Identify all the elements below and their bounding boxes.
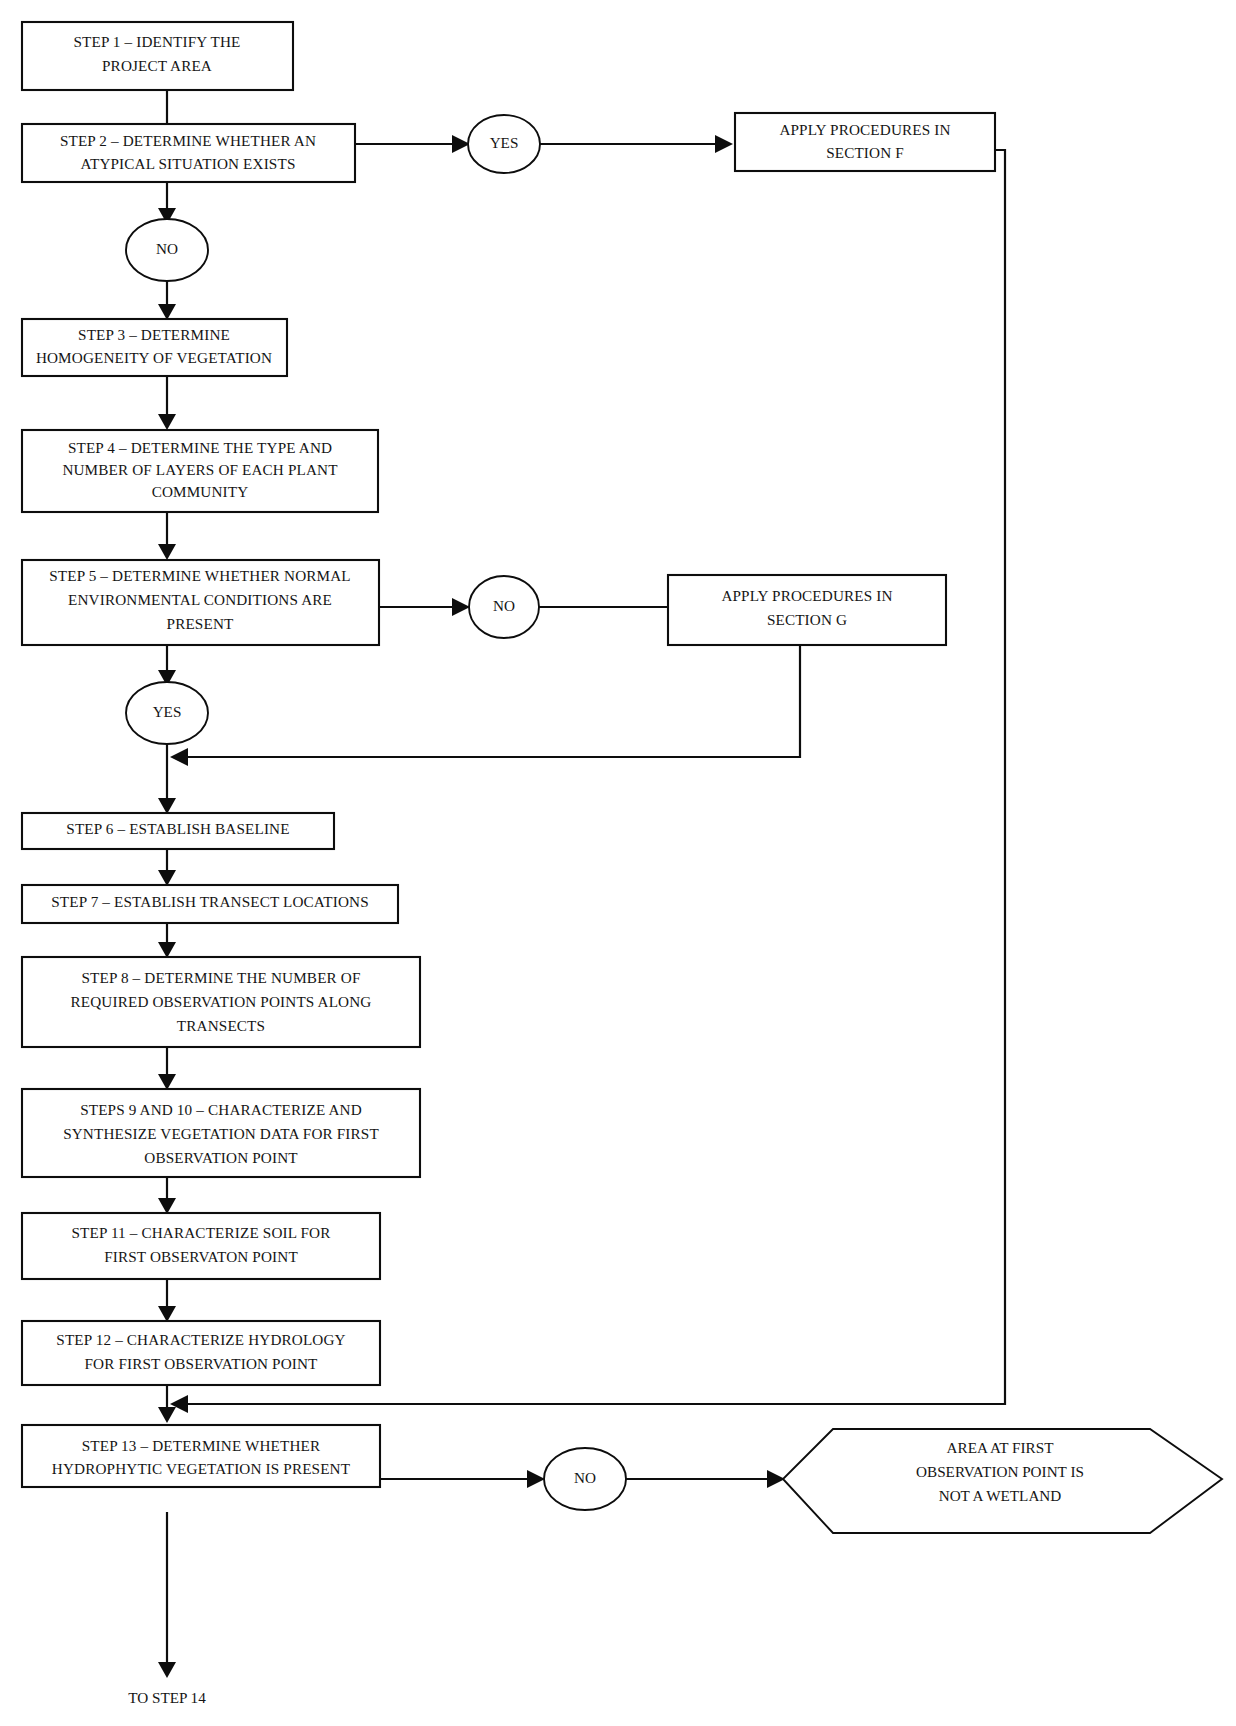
edge-step11-to-step12 <box>158 1279 176 1322</box>
to-step14-label: TO STEP 14 <box>128 1689 206 1706</box>
node-step8-line-1: STEP 8 – DETERMINE THE NUMBER OF <box>81 969 360 986</box>
node-step4-line-2: NUMBER OF LAYERS OF EACH PLANT <box>62 461 338 478</box>
edge-step6-to-step7 <box>158 846 176 886</box>
edge-step3-to-step4 <box>158 375 176 430</box>
node-step13-no-label: NO <box>574 1469 596 1486</box>
node-step13-line-2: HYDROPHYTIC VEGETATION IS PRESENT <box>52 1460 351 1477</box>
edge-no-to-not-wetland <box>625 1470 785 1488</box>
edge-yes-to-section-f <box>539 135 733 153</box>
node-step5-line-1: STEP 5 – DETERMINE WHETHER NORMAL <box>49 567 351 584</box>
node-step5-line-3: PRESENT <box>167 615 234 632</box>
node-step2-line-2: ATYPICAL SITUATION EXISTS <box>81 155 296 172</box>
node-section-f-line-1: APPLY PROCEDURES IN <box>779 121 950 138</box>
node-step8[interactable]: STEP 8 – DETERMINE THE NUMBER OF REQUIRE… <box>22 957 420 1047</box>
node-step1[interactable]: STEP 1 – IDENTIFY THE PROJECT AREA <box>22 22 293 90</box>
node-step5-yes-label: YES <box>153 703 182 720</box>
node-step1-line-1: STEP 1 – IDENTIFY THE <box>73 33 240 50</box>
edge-step7-to-step8 <box>158 921 176 958</box>
edge-step8-to-step9-10 <box>158 1047 176 1090</box>
node-not-wetland-terminal[interactable]: AREA AT FIRST OBSERVATION POINT IS NOT A… <box>783 1429 1222 1533</box>
edge-step2-to-no <box>158 182 176 224</box>
node-step4-line-3: COMMUNITY <box>152 483 249 500</box>
node-step5[interactable]: STEP 5 – DETERMINE WHETHER NORMAL ENVIRO… <box>22 560 379 645</box>
node-step12-line-2: FOR FIRST OBSERVATION POINT <box>84 1355 318 1372</box>
node-step5-line-2: ENVIRONMENTAL CONDITIONS ARE <box>68 591 332 608</box>
node-step5-no-label: NO <box>493 597 515 614</box>
edge-step2-to-yes <box>355 135 470 153</box>
node-step2-no-oval[interactable]: NO <box>126 219 208 281</box>
flowchart-svg: STEP 1 – IDENTIFY THE PROJECT AREA STEP … <box>0 0 1236 1726</box>
node-not-wetland-line-2: OBSERVATION POINT IS <box>916 1463 1084 1480</box>
node-step3[interactable]: STEP 3 – DETERMINE HOMOGENEITY OF VEGETA… <box>22 319 287 376</box>
node-not-wetland-line-1: AREA AT FIRST <box>947 1439 1055 1456</box>
node-step5-yes-oval[interactable]: YES <box>126 682 208 744</box>
node-step9-10-line-1: STEPS 9 AND 10 – CHARACTERIZE AND <box>80 1101 362 1118</box>
node-step11[interactable]: STEP 11 – CHARACTERIZE SOIL FOR FIRST OB… <box>22 1213 380 1279</box>
node-step2[interactable]: STEP 2 – DETERMINE WHETHER AN ATYPICAL S… <box>22 124 355 182</box>
node-section-f[interactable]: APPLY PROCEDURES IN SECTION F <box>735 113 995 171</box>
node-step11-line-2: FIRST OBSERVATON POINT <box>104 1248 298 1265</box>
flowchart-canvas: STEP 1 – IDENTIFY THE PROJECT AREA STEP … <box>0 0 1236 1726</box>
node-step9-10-line-3: OBSERVATION POINT <box>144 1149 298 1166</box>
node-step12-line-1: STEP 12 – CHARACTERIZE HYDROLOGY <box>56 1331 345 1348</box>
edge-step5-to-no <box>379 598 470 616</box>
node-step4[interactable]: STEP 4 – DETERMINE THE TYPE AND NUMBER O… <box>22 430 378 512</box>
node-step1-line-2: PROJECT AREA <box>102 57 212 74</box>
node-step2-yes-oval[interactable]: YES <box>468 115 540 173</box>
node-step8-line-2: REQUIRED OBSERVATION POINTS ALONG <box>71 993 372 1010</box>
node-step13-line-1: STEP 13 – DETERMINE WHETHER <box>82 1437 321 1454</box>
node-step6[interactable]: STEP 6 – ESTABLISH BASELINE <box>22 813 334 849</box>
node-step2-no-label: NO <box>156 240 178 257</box>
edge-step9-10-to-step11 <box>158 1177 176 1214</box>
node-to-step14: TO STEP 14 <box>128 1689 206 1706</box>
node-step2-line-1: STEP 2 – DETERMINE WHETHER AN <box>60 132 316 149</box>
node-step4-line-1: STEP 4 – DETERMINE THE TYPE AND <box>68 439 332 456</box>
edge-no-to-step3 <box>158 278 176 320</box>
node-section-g-line-1: APPLY PROCEDURES IN <box>721 587 892 604</box>
node-section-g[interactable]: APPLY PROCEDURES IN SECTION G <box>668 575 946 645</box>
node-step11-line-1: STEP 11 – CHARACTERIZE SOIL FOR <box>71 1224 331 1241</box>
node-step13-no-oval[interactable]: NO <box>544 1448 626 1510</box>
node-step3-line-2: HOMOGENEITY OF VEGETATION <box>36 349 272 366</box>
edge-step13-to-no <box>380 1470 545 1488</box>
node-step2-yes-label: YES <box>490 134 519 151</box>
node-not-wetland-line-3: NOT A WETLAND <box>939 1487 1062 1504</box>
node-step7[interactable]: STEP 7 – ESTABLISH TRANSECT LOCATIONS <box>22 885 398 923</box>
node-section-f-line-2: SECTION F <box>826 144 904 161</box>
node-step12[interactable]: STEP 12 – CHARACTERIZE HYDROLOGY FOR FIR… <box>22 1321 380 1385</box>
node-step3-line-1: STEP 3 – DETERMINE <box>78 326 230 343</box>
node-step8-line-3: TRANSECTS <box>177 1017 265 1034</box>
node-step9-10-line-2: SYNTHESIZE VEGETATION DATA FOR FIRST <box>63 1125 379 1142</box>
edge-step4-to-step5 <box>158 512 176 560</box>
node-step6-line-1: STEP 6 – ESTABLISH BASELINE <box>66 820 289 837</box>
edge-section-g-return <box>170 645 800 766</box>
edge-step5-to-yes <box>158 645 176 686</box>
edge-step13-to-step14 <box>158 1512 176 1678</box>
node-step7-line-1: STEP 7 – ESTABLISH TRANSECT LOCATIONS <box>51 893 369 910</box>
node-step9-10[interactable]: STEPS 9 AND 10 – CHARACTERIZE AND SYNTHE… <box>22 1089 420 1177</box>
node-step5-no-oval[interactable]: NO <box>469 576 539 638</box>
node-section-g-line-2: SECTION G <box>767 611 847 628</box>
edge-yes-to-step6 <box>158 740 176 814</box>
node-step13[interactable]: STEP 13 – DETERMINE WHETHER HYDROPHYTIC … <box>22 1425 380 1487</box>
